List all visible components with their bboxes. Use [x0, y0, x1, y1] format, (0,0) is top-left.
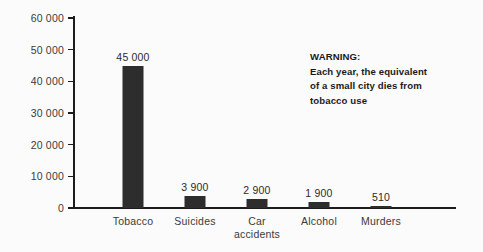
y-axis-tick-label: 10 000: [31, 170, 64, 182]
y-axis-tick-mark: [68, 112, 73, 114]
warning-line-4: tobacco use: [310, 94, 427, 109]
y-axis-tick-label: 20 000: [31, 139, 64, 151]
y-axis-tick-mark: [68, 49, 73, 51]
y-axis-tick: 60 000: [31, 12, 73, 24]
x-axis-category-label: Murders: [361, 215, 401, 228]
y-axis-tick: 40 000: [31, 75, 73, 87]
y-axis-tick-label: 30 000: [31, 107, 64, 119]
y-axis-tick-mark: [68, 17, 73, 19]
bar-group[interactable]: 510Murders: [350, 18, 412, 208]
bar[interactable]: [247, 199, 268, 208]
bar-group[interactable]: 2 900Car accidents: [226, 18, 288, 208]
bar-group[interactable]: 3 900Suicides: [164, 18, 226, 208]
x-axis-category-label: Car accidents: [234, 215, 280, 241]
bar-value-label: 510: [372, 191, 390, 203]
warning-line-1: WARNING:: [310, 50, 427, 65]
y-axis-tick-mark: [68, 144, 73, 146]
bar-chart-figure: 010 00020 00030 00040 00050 00060 000 45…: [0, 0, 483, 252]
bar[interactable]: [371, 206, 392, 208]
y-axis-tick-mark: [68, 81, 73, 83]
y-axis-tick: 10 000: [31, 170, 73, 182]
y-axis-tick-mark: [68, 207, 73, 209]
x-axis-category-label: Tobacco: [113, 215, 154, 228]
y-axis-tick: 20 000: [31, 139, 73, 151]
y-axis-tick: 30 000: [31, 107, 73, 119]
bar-value-label: 45 000: [116, 51, 149, 63]
x-axis-category-label: Suicides: [174, 215, 215, 228]
plot-area: 010 00020 00030 00040 00050 00060 000 45…: [73, 18, 455, 208]
y-axis-tick-mark: [68, 176, 73, 178]
bar[interactable]: [185, 196, 206, 208]
warning-line-3: of a small city dies from: [310, 79, 427, 94]
bar-value-label: 2 900: [243, 184, 270, 196]
bar-value-label: 1 900: [305, 187, 332, 199]
warning-line-2: Each year, the equivalent: [310, 65, 427, 80]
y-axis-tick: 50 000: [31, 44, 73, 56]
bar-group[interactable]: 1 900Alcohol: [288, 18, 350, 208]
bar-value-label: 3 900: [181, 181, 208, 193]
y-axis-tick-label: 60 000: [31, 12, 64, 24]
y-axis-tick-label: 0: [58, 202, 64, 214]
bar-group[interactable]: 45 000Tobacco: [102, 18, 164, 208]
bar[interactable]: [309, 202, 330, 208]
y-axis-tick: 0: [58, 202, 73, 214]
bar[interactable]: [123, 66, 144, 209]
y-axis-tick-label: 50 000: [31, 44, 64, 56]
warning-annotation: WARNING:Each year, the equivalentof a sm…: [310, 50, 427, 108]
y-axis-tick-label: 40 000: [31, 75, 64, 87]
x-axis-category-label: Alcohol: [301, 215, 337, 228]
